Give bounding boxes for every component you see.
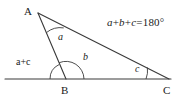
vertex-label-c: C — [163, 85, 170, 96]
angle-sum-equation: a+b+c=180° — [107, 17, 164, 28]
exterior-angle-arc — [50, 65, 59, 80]
vertex-label-b: B — [61, 85, 68, 96]
geometry-figure: A B C a b c a+c a+b+c=180° — [0, 0, 188, 100]
angle-label-c: c — [135, 64, 139, 74]
side-ab — [38, 13, 66, 79]
angle-label-a: a — [58, 32, 63, 42]
angle-label-b: b — [83, 52, 88, 62]
exterior-angle-label: a+c — [16, 57, 31, 67]
angle-arc-c — [146, 68, 148, 80]
vertex-label-a: A — [24, 6, 32, 17]
angle-arc-b — [59, 61, 84, 79]
